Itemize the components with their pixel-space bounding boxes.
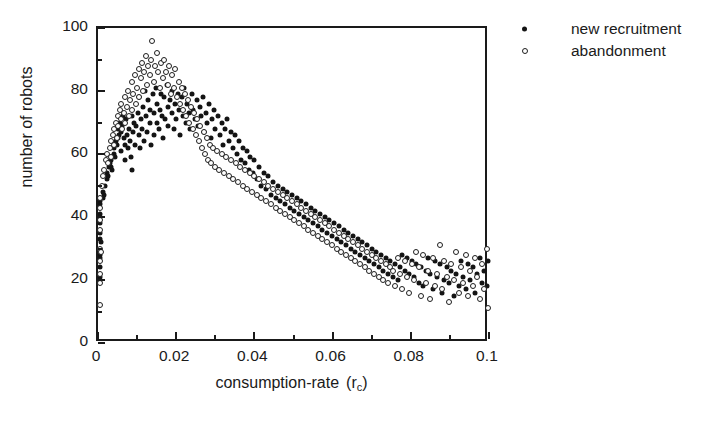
data-point-open xyxy=(197,123,203,129)
data-point-open xyxy=(149,38,155,44)
y-axis-tick-labels: 020406080100 xyxy=(0,0,88,431)
data-points-layer xyxy=(98,28,485,339)
data-point-open xyxy=(199,145,205,151)
data-point-filled xyxy=(160,136,165,141)
legend-item-new-recruitment: new recruitment xyxy=(519,18,704,40)
data-point-open xyxy=(161,57,167,63)
x-axis-title-paren-open: (r xyxy=(346,374,357,391)
data-point-filled xyxy=(142,139,147,144)
data-point-open xyxy=(105,160,111,166)
y-tick-mark xyxy=(98,311,102,313)
legend-label-new-recruitment: new recruitment xyxy=(571,18,681,40)
data-point-filled xyxy=(472,290,477,295)
data-point-open xyxy=(460,280,466,286)
y-tick-mark xyxy=(98,185,102,187)
y-tick-mark xyxy=(98,342,105,344)
data-point-open xyxy=(202,151,208,157)
legend-label-abandonment: abandonment xyxy=(571,40,666,62)
data-point-filled xyxy=(189,92,194,97)
y-tick-label: 40 xyxy=(0,206,88,224)
data-point-filled xyxy=(454,271,459,276)
data-point-filled xyxy=(395,278,400,283)
data-point-open xyxy=(101,167,107,173)
data-point-filled xyxy=(163,117,168,122)
data-point-open xyxy=(470,283,476,289)
data-point-open xyxy=(416,264,422,270)
data-point-filled xyxy=(207,101,212,106)
data-point-open xyxy=(129,79,135,85)
data-point-filled xyxy=(119,148,124,153)
data-point-open xyxy=(456,290,462,296)
data-point-open xyxy=(122,120,128,126)
legend-item-abandonment: abandonment xyxy=(519,40,704,62)
data-point-open xyxy=(434,271,440,277)
data-point-filled xyxy=(147,120,152,125)
data-point-open xyxy=(418,293,424,299)
data-point-open xyxy=(145,63,151,69)
data-point-filled xyxy=(124,133,129,138)
x-tick-mark xyxy=(488,332,490,339)
data-point-filled xyxy=(244,148,249,153)
data-point-open xyxy=(425,268,431,274)
data-point-open xyxy=(390,268,396,274)
data-point-open xyxy=(132,72,138,78)
y-tick-mark xyxy=(98,59,102,61)
data-point-open xyxy=(448,261,454,267)
data-point-open xyxy=(97,271,103,277)
data-point-filled xyxy=(165,104,170,109)
data-point-filled xyxy=(210,117,215,122)
data-point-open xyxy=(463,252,469,258)
data-point-filled xyxy=(135,111,140,116)
data-point-filled xyxy=(178,133,183,138)
data-point-open xyxy=(186,120,192,126)
data-point-open xyxy=(176,79,182,85)
data-point-filled xyxy=(128,155,133,160)
x-tick-mark xyxy=(136,335,138,339)
data-point-filled xyxy=(151,133,156,138)
data-point-filled xyxy=(166,123,171,128)
data-point-filled xyxy=(130,167,135,172)
data-point-open xyxy=(196,138,202,144)
x-tick-mark xyxy=(253,332,255,339)
data-point-open xyxy=(97,205,103,211)
data-point-open xyxy=(147,72,153,78)
data-point-filled xyxy=(468,278,473,283)
y-tick-label: 0 xyxy=(0,332,88,350)
data-point-filled xyxy=(162,95,167,100)
data-point-open xyxy=(191,110,197,116)
data-point-open xyxy=(139,60,145,66)
data-point-filled xyxy=(174,117,179,122)
data-point-open xyxy=(144,82,150,88)
data-point-open xyxy=(108,154,114,160)
x-tick-mark xyxy=(371,335,373,339)
data-point-open xyxy=(155,69,161,75)
data-point-filled xyxy=(110,167,115,172)
data-point-filled xyxy=(211,107,216,112)
data-point-filled xyxy=(125,145,130,150)
data-point-open xyxy=(395,255,401,261)
data-point-open xyxy=(177,101,183,107)
data-point-open xyxy=(179,85,185,91)
data-point-filled xyxy=(136,133,141,138)
data-point-open xyxy=(151,79,157,85)
data-point-open xyxy=(114,135,120,141)
x-tick-mark xyxy=(214,335,216,339)
data-point-filled xyxy=(486,259,491,264)
data-point-filled xyxy=(149,142,154,147)
x-tick-label: 0.08 xyxy=(394,347,425,365)
filled-circle-marker-icon xyxy=(522,27,527,32)
data-point-open xyxy=(190,126,196,132)
data-point-open xyxy=(467,268,473,274)
data-point-filled xyxy=(235,152,240,157)
data-point-filled xyxy=(213,126,218,131)
data-point-open xyxy=(397,271,403,277)
data-point-open xyxy=(148,57,154,63)
data-point-open xyxy=(180,107,186,113)
data-point-filled xyxy=(232,133,237,138)
data-point-open xyxy=(194,116,200,122)
x-tick-label: 0 xyxy=(92,347,101,365)
data-point-open xyxy=(201,129,207,135)
data-point-open xyxy=(406,290,412,296)
data-point-filled xyxy=(227,139,232,144)
data-point-filled xyxy=(134,123,139,128)
